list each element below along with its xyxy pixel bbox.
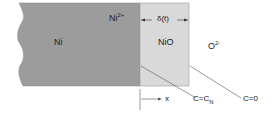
nio-label: NiO [158, 38, 174, 47]
oxygen-base: O [208, 41, 215, 51]
oxygen-ion-label: O2- [208, 42, 220, 51]
ni-ion-label: Ni2+ [109, 14, 124, 23]
x-axis-label: x [165, 95, 169, 103]
boundary-left-sub: N [209, 99, 213, 105]
thickness-label: δ(t) [157, 15, 169, 23]
ni-ion-base: Ni [109, 13, 118, 23]
diagram-shapes [0, 0, 277, 118]
ni-ion-charge: 2+ [118, 12, 125, 18]
boundary-left-base: C=C [193, 94, 209, 103]
ni-label: Ni [54, 38, 63, 47]
oxygen-charge: 2- [215, 40, 220, 46]
boundary-left-label: C=CN [193, 95, 214, 103]
oxidation-diagram: Ni Ni2+ δ(t) NiO O2- x C=CN C=0 [0, 0, 277, 118]
boundary-right-label: C=0 [243, 95, 258, 103]
